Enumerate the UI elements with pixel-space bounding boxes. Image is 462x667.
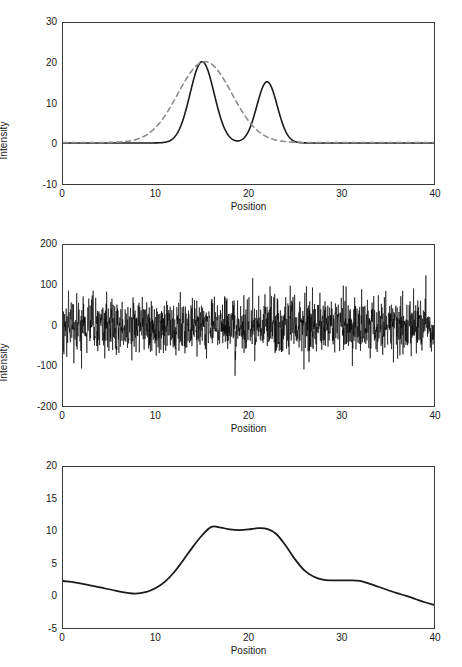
panel-3-y-tick-label: 20 xyxy=(23,461,57,471)
panel-1-y-tick-label: 20 xyxy=(23,58,57,68)
panel-3-x-tick-label: 0 xyxy=(42,633,82,643)
panel-3-x-tick-label: 10 xyxy=(135,633,175,643)
panel-1-x-tick-label: 30 xyxy=(322,189,362,199)
panel-2-x-tick-label: 0 xyxy=(42,411,82,421)
figure-three-panel-plot: -100102030010203040 Intensity Position -… xyxy=(0,0,462,667)
panel-1-x-tick-label: 10 xyxy=(135,189,175,199)
panel-2-plot-area xyxy=(62,244,435,407)
panel-2-series-noise-trace xyxy=(63,275,434,375)
panel-3-x-tick-label: 40 xyxy=(415,633,455,643)
panel-2-x-tick-label: 10 xyxy=(135,411,175,421)
panel-3-x-axis-label: Position xyxy=(62,645,435,656)
panel-2-x-axis-label: Position xyxy=(62,423,435,434)
panel-2-y-tick-label: -100 xyxy=(23,361,57,371)
panel-3-series-recovered-signal xyxy=(63,526,434,604)
panel-3-y-tick-label: 0 xyxy=(23,591,57,601)
plot-panel-3: -505101520010203040 Intensity Position xyxy=(0,444,462,666)
plot-panel-2: -200-1000100200010203040 Intensity Posit… xyxy=(0,222,462,444)
panel-2-x-tick-label: 30 xyxy=(322,411,362,421)
panel-3-x-tick-label: 20 xyxy=(229,633,269,643)
panel-2-y-tick-label: 100 xyxy=(23,280,57,290)
panel-3-y-tick-label: 15 xyxy=(23,494,57,504)
panel-1-x-tick-label: 20 xyxy=(229,189,269,199)
panel-1-y-tick-label: 10 xyxy=(23,99,57,109)
panel-2-x-tick-label: 20 xyxy=(229,411,269,421)
panel-2-y-tick-label: 0 xyxy=(23,321,57,331)
panel-1-x-axis-label: Position xyxy=(62,201,435,212)
panel-3-plot-area xyxy=(62,466,435,629)
panel-1-curves xyxy=(63,23,434,184)
panel-2-y-tick-label: 200 xyxy=(23,239,57,249)
panel-3-curves xyxy=(63,467,434,628)
plot-panel-1: -100102030010203040 Intensity Position xyxy=(0,0,462,222)
panel-2-x-tick-label: 40 xyxy=(415,411,455,421)
panel-1-series-true-signal xyxy=(63,62,434,143)
panel-1-x-tick-label: 40 xyxy=(415,189,455,199)
panel-1-plot-area xyxy=(62,22,435,185)
panel-1-y-tick-label: 0 xyxy=(23,139,57,149)
panel-2-curves xyxy=(63,245,434,406)
panel-3-y-axis-label: Intensity xyxy=(0,281,12,444)
panel-2-y-axis-label: Intensity xyxy=(0,59,12,222)
panel-1-x-tick-label: 0 xyxy=(42,189,82,199)
panel-1-y-tick-label: 30 xyxy=(23,17,57,27)
panel-3-y-tick-label: 10 xyxy=(23,526,57,536)
panel-3-y-tick-label: 5 xyxy=(23,559,57,569)
panel-3-x-tick-label: 30 xyxy=(322,633,362,643)
